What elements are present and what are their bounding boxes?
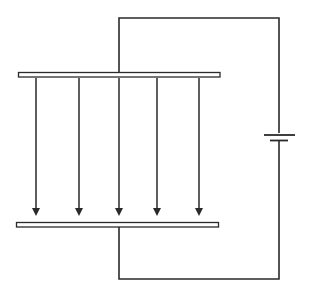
arrowhead-icon bbox=[115, 208, 123, 216]
arrowhead-icon bbox=[153, 208, 161, 216]
field-arrow bbox=[75, 78, 83, 216]
arrowhead-icon bbox=[75, 208, 83, 216]
field-arrow bbox=[195, 78, 203, 216]
capacitor-circuit-diagram bbox=[0, 0, 311, 299]
arrowhead-icon bbox=[195, 208, 203, 216]
battery-icon bbox=[264, 135, 295, 141]
field-arrow bbox=[153, 78, 161, 216]
electric-field-arrows bbox=[32, 78, 203, 216]
field-arrow bbox=[115, 78, 123, 216]
arrowhead-icon bbox=[32, 208, 40, 216]
top-plate bbox=[19, 73, 221, 78]
bottom-plate bbox=[17, 223, 219, 228]
field-arrow bbox=[32, 78, 40, 216]
